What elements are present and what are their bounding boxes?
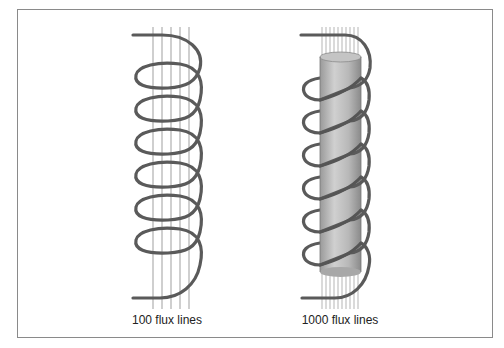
air-core-solenoid bbox=[133, 27, 201, 309]
solenoid-diagram bbox=[0, 0, 504, 348]
flux-lines bbox=[153, 27, 189, 309]
air-core-label: 100 flux lines bbox=[132, 313, 202, 327]
coil-wire-back bbox=[304, 78, 320, 265]
iron-core-label: 1000 flux lines bbox=[302, 313, 379, 327]
coil-wire bbox=[133, 35, 201, 298]
iron-core-solenoid bbox=[301, 27, 370, 309]
